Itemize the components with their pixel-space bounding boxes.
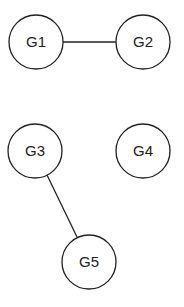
- node-g3-label: G3: [8, 141, 62, 161]
- node-g4-label: G4: [116, 141, 170, 161]
- node-g5-label: G5: [62, 252, 116, 272]
- graph-diagram: G1 G2 G3 G4 G5: [0, 0, 184, 307]
- edge-g3-g5: [47, 175, 77, 237]
- node-g1-label: G1: [9, 32, 63, 52]
- node-g2-label: G2: [116, 32, 170, 52]
